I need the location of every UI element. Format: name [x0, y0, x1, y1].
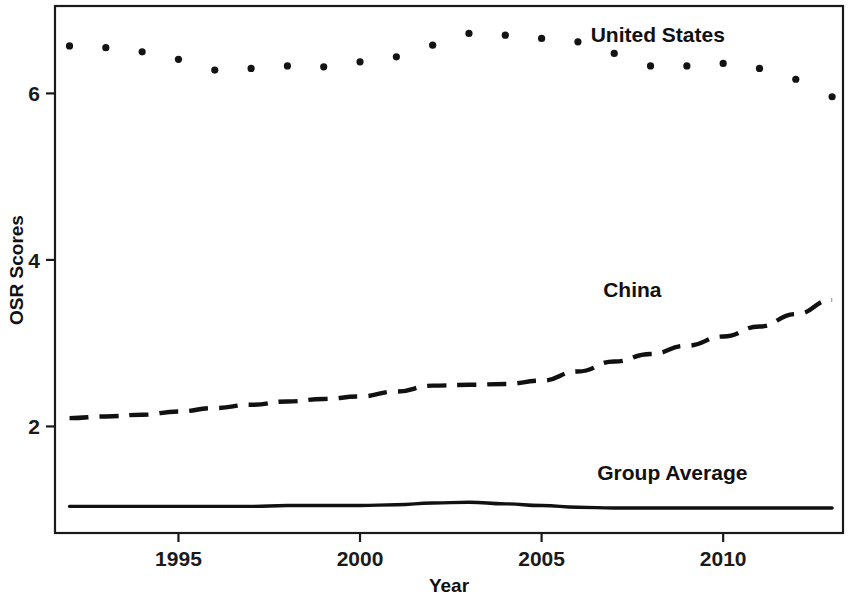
x-tick-label: 2010 — [700, 547, 747, 570]
data-point — [538, 35, 545, 42]
x-axis-title: Year — [429, 575, 470, 596]
data-point — [647, 62, 654, 69]
series-annotations: United StatesChinaGroup Average — [591, 23, 748, 484]
y-tick-label: 4 — [28, 249, 40, 272]
data-point — [465, 30, 472, 37]
data-point — [356, 58, 363, 65]
data-point — [829, 93, 836, 100]
x-tick-label: 2000 — [337, 547, 384, 570]
data-point — [247, 65, 254, 72]
data-point — [720, 60, 727, 67]
x-tick-label: 2005 — [518, 547, 565, 570]
data-point — [756, 65, 763, 72]
series-china — [70, 300, 833, 418]
data-point — [66, 42, 73, 49]
data-point — [502, 32, 509, 39]
data-point — [102, 44, 109, 51]
series-layer — [66, 30, 836, 508]
series-group-average — [70, 502, 833, 508]
data-point — [429, 42, 436, 49]
data-point — [574, 38, 581, 45]
y-axis-title: OSR Scores — [6, 215, 27, 325]
data-point — [611, 50, 618, 57]
x-axis: 1995200020052010 — [155, 533, 746, 570]
y-axis: 246 — [28, 82, 55, 438]
chart-container: 246 1995200020052010 OSR Scores Year Uni… — [0, 0, 851, 601]
data-point — [393, 53, 400, 60]
y-tick-label: 2 — [28, 415, 40, 438]
y-tick-label: 6 — [28, 82, 40, 105]
data-point — [792, 76, 799, 83]
data-point — [175, 56, 182, 63]
data-point — [284, 62, 291, 69]
data-point — [320, 63, 327, 70]
series-label-united-states: United States — [591, 23, 725, 46]
series-label-group-average: Group Average — [597, 461, 747, 484]
plot-frame — [55, 6, 843, 533]
data-point — [211, 67, 218, 74]
x-tick-label: 1995 — [155, 547, 202, 570]
data-point — [683, 62, 690, 69]
osr-scores-line-chart: 246 1995200020052010 OSR Scores Year Uni… — [0, 0, 851, 601]
series-label-china: China — [603, 278, 662, 301]
data-point — [139, 48, 146, 55]
